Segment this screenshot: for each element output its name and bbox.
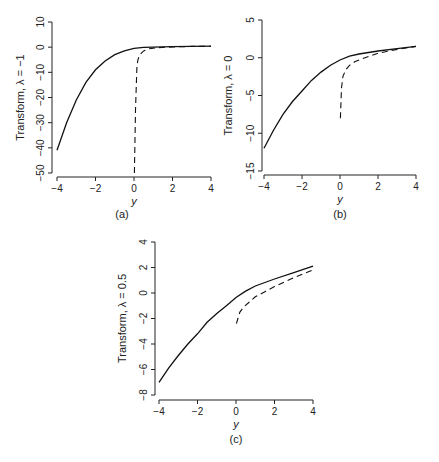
y-tick-label: −40 — [35, 139, 46, 156]
y-tick-label: 10 — [35, 16, 46, 28]
x-tick-label: −4 — [258, 181, 270, 192]
y-tick-label: −10 — [35, 63, 46, 80]
y-axis-title: Transform, λ = 0.5 — [116, 274, 128, 363]
chart-panel-b: −4−202450−5−10−15yTransform, λ = 0(b) — [222, 17, 419, 220]
dashed-curve — [236, 270, 313, 324]
y-axis-title: Transform, λ = −1 — [14, 54, 26, 140]
x-tick-label: 2 — [375, 181, 381, 192]
solid-curve — [57, 46, 211, 150]
x-tick-label: 0 — [233, 406, 239, 417]
x-tick-label: 2 — [170, 183, 176, 194]
y-tick-label: −2 — [138, 312, 149, 324]
solid-curve — [159, 266, 313, 382]
x-tick-label: 0 — [131, 183, 137, 194]
x-axis-title: y — [336, 193, 344, 205]
y-tick-label: −10 — [245, 124, 256, 141]
y-tick-label: 0 — [138, 290, 149, 296]
x-tick-label: 2 — [272, 406, 278, 417]
x-tick-label: −2 — [296, 181, 308, 192]
panel-label: (b) — [333, 208, 346, 220]
x-axis-title: y — [130, 195, 138, 207]
x-tick-label: 0 — [337, 181, 343, 192]
x-tick-label: 4 — [208, 183, 214, 194]
y-tick-label: −8 — [138, 389, 149, 401]
y-axis-title: Transform, λ = 0 — [222, 56, 234, 136]
y-tick-label: 0 — [245, 55, 256, 61]
y-tick-label: 4 — [138, 239, 149, 245]
chart-panel-c: −4−2024420−2−4−6−8yTransform, λ = 0.5(c) — [116, 239, 316, 445]
dashed-curve — [340, 46, 416, 118]
chart-panel-a: −4−2024100−10−20−30−40−50yTransform, λ =… — [14, 16, 214, 220]
y-tick-label: −15 — [245, 162, 256, 179]
x-tick-label: −4 — [51, 183, 63, 194]
x-tick-label: −2 — [192, 406, 204, 417]
y-tick-label: −20 — [35, 89, 46, 106]
y-tick-label: −30 — [35, 114, 46, 131]
dashed-curve — [134, 46, 211, 173]
solid-curve — [264, 46, 416, 148]
y-tick-label: −50 — [35, 164, 46, 181]
figure: −4−2024100−10−20−30−40−50yTransform, λ =… — [0, 0, 439, 462]
x-tick-label: 4 — [310, 406, 316, 417]
x-axis-title: y — [232, 418, 240, 430]
panel-label: (c) — [230, 433, 243, 445]
y-tick-label: 0 — [35, 44, 46, 50]
x-tick-label: −2 — [90, 183, 102, 194]
y-tick-label: −5 — [245, 89, 256, 101]
x-tick-label: −4 — [153, 406, 165, 417]
y-tick-label: 5 — [245, 17, 256, 23]
x-tick-label: 4 — [413, 181, 419, 192]
y-tick-label: 2 — [138, 264, 149, 270]
y-tick-label: −6 — [138, 363, 149, 375]
y-tick-label: −4 — [138, 338, 149, 350]
panel-label: (a) — [115, 208, 128, 220]
